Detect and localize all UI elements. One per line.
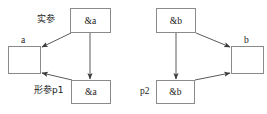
diagram-canvas: &a 实参 a &a 形参p1 &b b &b p2 xyxy=(0,0,267,114)
actual-param-box-a-text: &a xyxy=(84,16,96,26)
arrow-actual-b-to-var-b xyxy=(196,33,230,47)
formal-param-label-p2: p2 xyxy=(140,87,150,97)
arrow-formal-p2-to-var-b xyxy=(195,73,230,80)
formal-param-box-p2-text: &b xyxy=(169,87,182,97)
actual-param-box-a: &a xyxy=(70,8,111,33)
variable-label-a: a xyxy=(21,36,25,46)
actual-param-label-left: 实参 xyxy=(37,15,55,24)
variable-label-b: b xyxy=(244,36,249,46)
formal-param-box-p1-text: &a xyxy=(85,87,97,97)
formal-param-box-p2: &b xyxy=(156,80,195,104)
variable-box-b xyxy=(231,46,264,74)
variable-box-a xyxy=(8,46,41,74)
arrow-formal-p1-to-var-a xyxy=(42,73,72,80)
formal-param-box-p1: &a xyxy=(71,80,111,104)
actual-param-box-b-text: &b xyxy=(170,16,183,26)
arrow-actual-a-to-var-a xyxy=(42,33,71,47)
actual-param-box-b: &b xyxy=(156,8,196,33)
formal-param-label-p1: 形参p1 xyxy=(34,86,63,95)
